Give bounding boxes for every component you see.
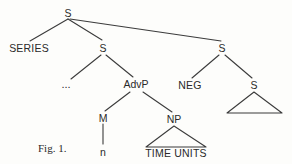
node-n: n	[100, 146, 106, 158]
embedded-s-triangle	[227, 92, 282, 113]
edge-root-to-series	[30, 19, 68, 41]
node-ellipsis: ...	[61, 78, 70, 90]
node-right-s: S	[218, 42, 225, 54]
node-np: NP	[167, 113, 182, 125]
edge-left-s-to-ellipsis	[71, 55, 101, 79]
node-time-units: TIME UNITS	[145, 147, 207, 159]
node-m: M	[99, 112, 108, 124]
figure-tree-diagram: S SERIES S ... AdvP M n NP TIME UNITS S …	[0, 0, 292, 164]
edge-root-to-right-s	[70, 19, 221, 41]
np-triangle	[146, 126, 206, 147]
node-series: SERIES	[9, 42, 49, 54]
edge-left-s-to-advp	[106, 55, 133, 77]
node-embedded-s: S	[250, 79, 257, 91]
syntax-tree-svg: S SERIES S ... AdvP M n NP TIME UNITS S …	[0, 0, 292, 164]
edge-advp-to-np	[143, 92, 172, 112]
figure-caption: Fig. 1.	[38, 142, 67, 154]
node-advp: AdvP	[123, 78, 148, 90]
edge-right-s-to-neg	[192, 55, 219, 78]
edge-root-to-left-s	[68, 19, 102, 40]
edge-advp-to-m	[105, 92, 130, 111]
node-left-s: S	[99, 42, 106, 54]
edge-right-s-to-embedded-s	[225, 55, 252, 78]
node-root-s: S	[64, 7, 71, 19]
node-neg: NEG	[178, 79, 201, 91]
